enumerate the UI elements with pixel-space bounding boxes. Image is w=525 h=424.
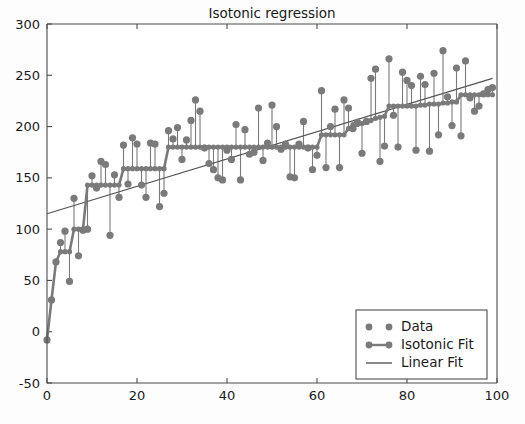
y-tick-label: -50: [19, 376, 40, 391]
x-tick-label: 60: [309, 388, 326, 403]
isotonic-fit-point: [332, 132, 337, 137]
data-point: [115, 194, 122, 201]
page-title: Isotonic regression: [208, 5, 335, 21]
isotonic-fit-point: [373, 116, 378, 121]
data-point: [385, 55, 392, 62]
data-point: [327, 123, 334, 130]
data-point: [259, 157, 266, 164]
legend-marker-icon: [366, 324, 373, 331]
data-point: [228, 156, 235, 163]
data-point: [408, 82, 415, 89]
x-tick-label: 20: [129, 388, 146, 403]
isotonic-fit-point: [134, 166, 139, 171]
isotonic-fit-point: [98, 182, 103, 187]
isotonic-fit-point: [152, 166, 157, 171]
data-point: [390, 112, 397, 119]
isotonic-fit-point: [175, 144, 180, 149]
isotonic-fit-point: [278, 144, 283, 149]
isotonic-fit-point: [436, 101, 441, 106]
data-point: [417, 73, 424, 80]
isotonic-fit-point: [310, 144, 315, 149]
isotonic-fit-point: [193, 144, 198, 149]
data-point: [169, 135, 176, 142]
isotonic-fit-point: [445, 100, 450, 105]
data-point: [273, 123, 280, 130]
chart-legend[interactable]: Data Isotonic Fit Linear Fit: [356, 310, 487, 379]
y-tick-label: 300: [15, 17, 40, 32]
data-point: [210, 166, 217, 173]
data-point: [475, 102, 482, 109]
data-point: [192, 96, 199, 103]
x-tick-label: 100: [485, 388, 510, 403]
isotonic-fit-point: [256, 144, 261, 149]
isotonic-fit-point: [62, 249, 67, 254]
isotonic-fit-point: [341, 132, 346, 137]
data-point: [394, 143, 401, 150]
data-point: [291, 174, 298, 181]
isotonic-fit-point: [476, 92, 481, 97]
isotonic-fit-point: [404, 103, 409, 108]
isotonic-fit-point: [454, 99, 459, 104]
data-point: [111, 171, 118, 178]
isotonic-fit-point: [197, 144, 202, 149]
isotonic-fit-point: [76, 227, 81, 232]
isotonic-fit-point: [139, 166, 144, 171]
data-point: [336, 164, 343, 171]
data-point: [232, 121, 239, 128]
isotonic-fit-point: [112, 182, 117, 187]
isotonic-fit-point: [170, 144, 175, 149]
data-point: [178, 156, 185, 163]
isotonic-fit-point: [463, 92, 468, 97]
isotonic-fit-point: [400, 103, 405, 108]
data-point: [205, 160, 212, 167]
isotonic-fit-point: [202, 144, 207, 149]
isotonic-fit-point: [71, 227, 76, 232]
isotonic-fit-point: [260, 144, 265, 149]
data-point: [435, 131, 442, 138]
legend-label-linear-fit: Linear Fit: [401, 354, 463, 370]
isotonic-fit-point: [125, 166, 130, 171]
data-point: [318, 87, 325, 94]
legend-label-isotonic-fit: Isotonic Fit: [401, 336, 474, 352]
isotonic-fit-point: [364, 120, 369, 125]
isotonic-fit-point: [80, 227, 85, 232]
isotonic-fit-point: [391, 103, 396, 108]
isotonic-fit-point: [179, 144, 184, 149]
data-point: [430, 70, 437, 77]
data-point: [219, 176, 226, 183]
isotonic-fit-point: [481, 92, 486, 97]
data-point: [187, 117, 194, 124]
data-point: [133, 140, 140, 147]
y-tick-label: 50: [23, 273, 40, 288]
data-point: [237, 176, 244, 183]
data-point: [426, 148, 433, 155]
data-point: [196, 108, 203, 115]
data-point: [102, 161, 109, 168]
x-tick-label: 40: [219, 388, 236, 403]
isotonic-fit-point: [58, 249, 63, 254]
isotonic-fit-point: [116, 182, 121, 187]
isotonic-fit-point: [53, 259, 58, 264]
isotonic-fit-point: [395, 103, 400, 108]
data-point: [345, 105, 352, 112]
y-tick-label: 100: [15, 222, 40, 237]
data-point: [340, 96, 347, 103]
isotonic-fit-point: [377, 115, 382, 120]
data-point: [250, 149, 257, 156]
y-tick-label: 0: [32, 324, 40, 339]
isotonic-fit-point: [238, 144, 243, 149]
data-point: [300, 118, 307, 125]
data-point: [358, 150, 365, 157]
data-point: [61, 228, 68, 235]
isotonic-fit-point: [409, 103, 414, 108]
isotonic-fit-point: [233, 144, 238, 149]
data-point: [57, 239, 64, 246]
data-point: [453, 65, 460, 72]
isotonic-fit-point: [94, 182, 99, 187]
isotonic-fit-point: [386, 103, 391, 108]
isotonic-fit-point: [382, 114, 387, 119]
data-point: [138, 181, 145, 188]
isotonic-fit-point: [220, 144, 225, 149]
isotonic-regression-chart: Isotonic regression -5005010015020025030…: [0, 0, 525, 424]
isotonic-fit-point: [67, 249, 72, 254]
